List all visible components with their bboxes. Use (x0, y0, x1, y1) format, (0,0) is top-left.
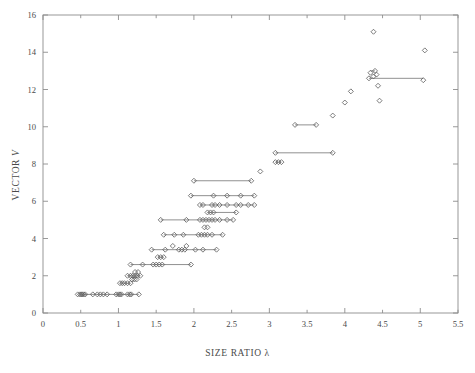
svg-text:16: 16 (27, 10, 36, 20)
svg-text:5: 5 (418, 319, 422, 329)
axis-tick-labels: 00.511.522.533.544.555.50246810121416 (27, 10, 463, 329)
data-point-markers (75, 29, 427, 297)
svg-text:0: 0 (41, 319, 45, 329)
svg-text:0: 0 (32, 308, 36, 318)
svg-text:3.5: 3.5 (302, 319, 313, 329)
svg-text:2: 2 (192, 319, 196, 329)
svg-text:2: 2 (32, 271, 36, 281)
svg-text:4.5: 4.5 (377, 319, 388, 329)
svg-text:4: 4 (343, 319, 348, 329)
x-axis-label: SIZE RATIO λ (0, 348, 475, 358)
y-axis-label-symbol: V (11, 150, 21, 156)
svg-text:10: 10 (27, 122, 36, 132)
y-axis-label: VECTOR V (11, 115, 21, 235)
svg-text:2.5: 2.5 (226, 319, 237, 329)
svg-text:12: 12 (27, 85, 36, 95)
svg-text:3: 3 (267, 319, 271, 329)
svg-text:4: 4 (32, 234, 37, 244)
svg-text:8: 8 (32, 159, 36, 169)
y-axis-label-text: VECTOR (11, 156, 21, 200)
scatter-plot-figure: 00.511.522.533.544.555.50246810121416 SI… (0, 0, 475, 373)
svg-text:1: 1 (116, 319, 120, 329)
svg-text:5.5: 5.5 (453, 319, 464, 329)
svg-text:14: 14 (27, 47, 36, 57)
svg-text:1.5: 1.5 (151, 319, 162, 329)
axis-ticks (43, 15, 458, 313)
plot-frame (43, 15, 458, 313)
svg-text:0.5: 0.5 (75, 319, 86, 329)
plot-canvas: 00.511.522.533.544.555.50246810121416 (0, 0, 475, 373)
svg-text:6: 6 (32, 196, 37, 206)
